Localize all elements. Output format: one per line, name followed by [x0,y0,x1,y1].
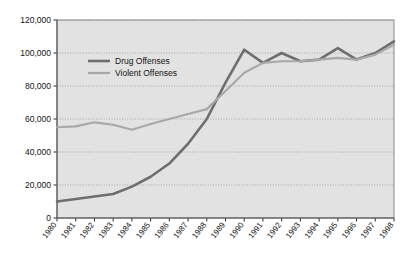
x-tick-label: 1994 [303,220,321,240]
x-tick-label: 1985 [134,220,152,240]
line-chart: 120,000100,00080,00060,00040,00020,0000 … [0,0,415,253]
y-tick-label: 80,000 [25,81,51,91]
legend-label: Drug Offenses [115,56,170,66]
x-tick-label: 1984 [115,220,133,240]
y-axis-labels: 120,000100,00080,00060,00040,00020,0000 [20,15,51,223]
x-tick-label: 1991 [246,220,264,240]
y-tick-label: 60,000 [25,114,51,124]
x-tick-label: 1988 [190,220,208,240]
chart-container: 120,000100,00080,00060,00040,00020,0000 … [0,0,415,253]
x-tick-label: 1990 [228,220,246,240]
x-tick-label: 1996 [340,220,358,240]
y-tick-label: 40,000 [25,147,51,157]
y-tick-label: 100,000 [20,48,51,58]
x-tick-label: 1995 [321,220,339,240]
x-tick-label: 1986 [153,220,171,240]
x-tick-label: 1989 [209,220,227,240]
x-tick-label: 1992 [265,220,283,240]
y-axis-ticks [54,20,58,218]
x-tick-label: 1981 [59,220,77,240]
x-tick-label: 1997 [359,220,377,240]
x-tick-label: 1982 [78,220,96,240]
x-axis-labels: 1980198119821983198419851986198719881989… [41,220,396,240]
legend-label: Violent Offenses [115,68,177,78]
y-tick-label: 20,000 [25,180,51,190]
x-tick-label: 1983 [97,220,115,240]
x-tick-label: 1993 [284,220,302,240]
x-tick-label: 1980 [41,220,59,240]
y-tick-label: 120,000 [20,15,51,25]
x-tick-label: 1987 [172,220,190,240]
x-tick-label: 1998 [378,220,396,240]
